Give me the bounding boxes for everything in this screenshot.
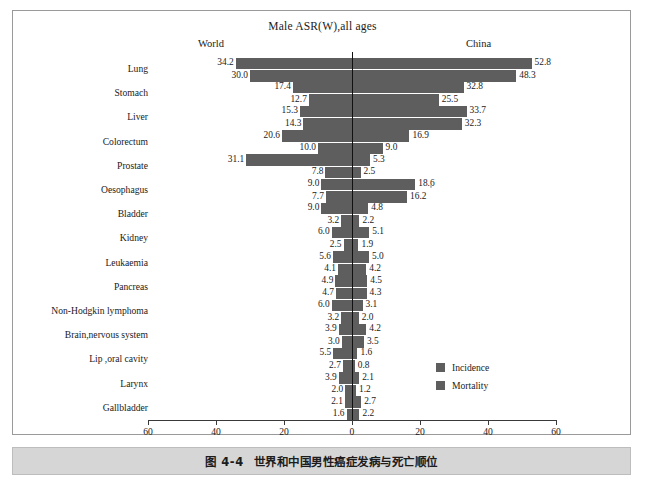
value-label-china-incidence: 5.3 [373,154,385,166]
axis-tick [420,420,421,425]
value-label-china-incidence: 3.1 [366,299,378,311]
value-label-world-incidence: 15.3 [282,105,298,117]
bar-china-incidence [352,179,415,191]
category-label: Non-Hodgkin lymphoma [0,305,148,316]
value-label-world-incidence: 6.0 [318,226,330,238]
value-label-china-incidence: 33.7 [470,105,486,117]
category-label: Kidney [0,232,148,243]
legend-swatch-mortality [436,381,445,390]
value-label-china-incidence: 4.2 [369,323,381,335]
category-label: Colorectum [0,136,148,147]
scan-speck [430,185,432,188]
category-label: Gallbladder [0,402,148,413]
panel-header-china: China [466,38,491,49]
bar-world-incidence [339,324,352,336]
chart-legend: Incidence Mortality [436,362,489,398]
chart-plot-area: Male ASR(W),all ages World China Lung34.… [0,0,645,435]
axis-tick-label: 40 [483,426,493,437]
value-label-china-incidence: 32.8 [467,81,483,93]
axis-tick [352,420,353,425]
bar-world-incidence [321,203,352,215]
bar-china-incidence [352,227,369,239]
value-label-world-incidence: 5.6 [319,251,331,263]
value-label-china-incidence: 16.9 [412,130,428,142]
value-label-china-incidence: 5.0 [372,251,384,263]
bar-world-incidence [335,275,352,287]
legend-swatch-incidence [436,363,445,372]
category-label: Lung [0,63,148,74]
bar-china-incidence [352,203,368,215]
zero-axis-line [352,52,354,420]
bar-china-incidence [352,324,366,336]
bar-world-incidence [236,58,352,70]
legend-label-mortality: Mortality [452,380,488,391]
axis-tick [148,420,149,425]
category-label: Prostate [0,160,148,171]
category-label: Leukaemia [0,257,148,268]
legend-item-incidence: Incidence [436,362,489,373]
axis-tick-label: 20 [279,426,289,437]
value-label-world-incidence: 2.1 [331,396,343,408]
value-label-china-incidence: 52.8 [535,57,551,69]
legend-label-incidence: Incidence [452,362,489,373]
axis-tick-label: 20 [415,426,425,437]
axis-tick-label: 40 [211,426,221,437]
bar-world-incidence [293,82,352,94]
value-label-china-incidence: 4.8 [371,202,383,214]
bar-world-incidence [333,348,352,360]
bar-china-incidence [352,251,369,263]
bar-world-incidence [332,300,352,312]
axis-tick [216,420,217,425]
category-label: Pancreas [0,281,148,292]
caption-text: 世界和中国男性癌症发病与死亡顺位 [254,453,438,469]
bar-china-incidence [352,300,363,312]
value-label-world-incidence: 9.0 [308,202,320,214]
category-label: Brain,nervous system [0,329,148,340]
category-label: Bladder [0,208,148,219]
category-label: Stomach [0,87,148,98]
value-label-world-incidence: 31.1 [228,154,244,166]
panel-header-world: World [198,38,224,49]
axis-tick-label: 60 [143,426,153,437]
bar-world-incidence [282,130,352,142]
value-label-world-incidence: 17.4 [274,81,290,93]
bar-world-incidence [300,106,352,118]
category-label: Larynx [0,378,148,389]
bar-china-incidence [352,58,532,70]
axis-tick-label: 60 [551,426,561,437]
bar-china-incidence [352,275,367,287]
value-label-china-incidence: 2.7 [364,396,376,408]
value-label-world-incidence: 6.0 [318,299,330,311]
value-label-world-incidence: 34.2 [217,57,233,69]
chart-title: Male ASR(W),all ages [0,20,645,32]
value-label-china-mortality: 2.2 [362,408,374,420]
bar-china-incidence [352,82,464,94]
value-label-china-incidence: 18.6 [418,178,434,190]
category-label: Lip ,oral cavity [0,353,148,364]
bar-world-incidence [333,251,352,263]
figure-container: Male ASR(W),all ages World China Lung34.… [0,0,645,490]
axis-tick-label: 0 [350,426,355,437]
axis-tick [284,420,285,425]
figure-caption: 图 4-4 世界和中国男性癌症发病与死亡顺位 [12,447,631,475]
category-label: Oesophagus [0,184,148,195]
axis-tick [556,420,557,425]
value-label-world-mortality: 1.6 [333,408,345,420]
bar-world-incidence [332,227,352,239]
value-label-world-incidence: 5.5 [320,347,332,359]
category-label: Liver [0,111,148,122]
bar-china-mortality [352,409,359,421]
bar-china-incidence [352,130,409,142]
bar-world-incidence [246,154,352,166]
caption-number: 图 4-4 [205,453,243,469]
bar-world-incidence [321,179,352,191]
bar-china-incidence [352,154,370,166]
value-label-world-incidence: 4.9 [322,275,334,287]
axis-tick [488,420,489,425]
bar-china-incidence [352,396,361,408]
legend-item-mortality: Mortality [436,380,489,391]
value-label-china-incidence: 4.5 [370,275,382,287]
value-label-world-incidence: 9.0 [308,178,320,190]
value-label-china-incidence: 5.1 [372,226,384,238]
bar-world-incidence [339,372,352,384]
